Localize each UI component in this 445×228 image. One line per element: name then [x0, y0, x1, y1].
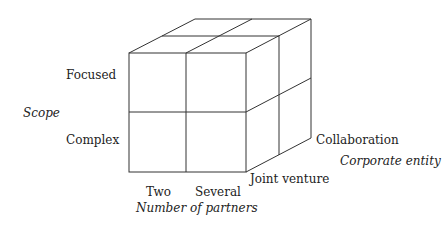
- level-two: Two: [146, 185, 171, 199]
- axis-title-corporate-entity: Corporate entity: [340, 154, 441, 168]
- cube-diagram: Focused Complex Scope Two Several Number…: [0, 0, 445, 228]
- axis-title-scope: Scope: [23, 106, 60, 120]
- level-joint-venture: Joint venture: [250, 172, 329, 186]
- level-several: Several: [195, 185, 241, 199]
- axis-title-number-of-partners: Number of partners: [136, 201, 258, 215]
- level-complex: Complex: [66, 133, 119, 147]
- level-collaboration: Collaboration: [316, 133, 399, 147]
- level-focused: Focused: [66, 68, 116, 82]
